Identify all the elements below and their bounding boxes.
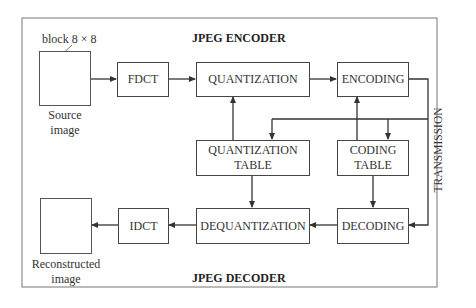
quantization-table-block: QUANTIZATION TABLE — [196, 140, 310, 176]
quantization-table-line2: TABLE — [234, 158, 272, 173]
encoding-label: ENCODING — [342, 72, 405, 87]
coding-table-line2: TABLE — [354, 158, 392, 173]
reconstructed-label-line1: Reconstructed — [26, 257, 106, 272]
reconstructed-image-frame — [40, 198, 92, 254]
idct-block: IDCT — [118, 208, 169, 244]
source-image-frame — [39, 51, 91, 106]
decoder-title: JPEG DECODER — [192, 271, 286, 286]
source-label-line1: Source — [35, 108, 95, 123]
quantization-table-line1: QUANTIZATION — [208, 143, 297, 158]
transmission-label: TRANSMISSION — [432, 105, 444, 195]
fdct-block: FDCT — [117, 62, 169, 97]
reconstructed-label-line2: image — [26, 272, 106, 287]
quantization-block: QUANTIZATION — [196, 62, 310, 97]
reconstructed-image-label: Reconstructed image — [26, 257, 106, 287]
decoding-block: DECODING — [337, 208, 409, 244]
dequantization-label: DEQUANTIZATION — [200, 219, 305, 234]
idct-label: IDCT — [130, 219, 158, 234]
fdct-label: FDCT — [128, 72, 159, 87]
encoder-title: JPEG ENCODER — [192, 31, 286, 46]
quantization-label: QUANTIZATION — [208, 72, 297, 87]
encoding-block: ENCODING — [337, 62, 409, 97]
source-label-line2: image — [35, 123, 95, 138]
dequantization-block: DEQUANTIZATION — [196, 208, 310, 244]
decoding-label: DECODING — [342, 219, 405, 234]
coding-table-line1: CODING — [350, 143, 397, 158]
coding-table-block: CODING TABLE — [337, 140, 409, 176]
block-size-label: block 8 × 8 — [42, 32, 112, 47]
source-image-label: Source image — [35, 108, 95, 138]
